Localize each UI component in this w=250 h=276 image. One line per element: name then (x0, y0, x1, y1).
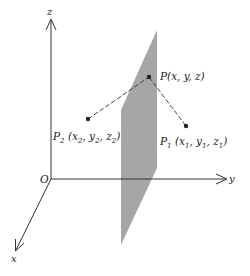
point-p2-label: P2 (x2, y2, z2) (52, 130, 120, 145)
p2-mid2: , z (99, 130, 112, 142)
p1-close: ) (222, 135, 227, 147)
bisector-plane (121, 30, 157, 245)
point-p1-label: P1 (x1, y1, z1) (159, 135, 227, 150)
x-axis (16, 179, 51, 250)
p2-open: (x (65, 130, 78, 142)
p2-close: ) (115, 130, 120, 142)
point-p-label: P(x, y, z) (159, 70, 205, 82)
point-p2 (86, 117, 90, 121)
coordinate-diagram: z y x O P(x, y, z) P2 (x2, y2, z2) P1 (x… (0, 0, 250, 276)
x-axis-arrowhead-icon (16, 239, 25, 251)
point-p-coords: (x, y, z) (167, 70, 205, 82)
origin-label: O (40, 173, 49, 185)
p1-mid2: , z (206, 135, 219, 147)
point-p1 (184, 124, 188, 128)
p1-mid1: , y (189, 135, 203, 147)
p2-mid1: , y (82, 130, 96, 142)
p1-open: (x (172, 135, 185, 147)
x-axis-label: x (11, 253, 17, 264)
y-axis-label: y (228, 173, 235, 184)
point-p (147, 75, 151, 79)
z-axis-label: z (46, 6, 53, 17)
